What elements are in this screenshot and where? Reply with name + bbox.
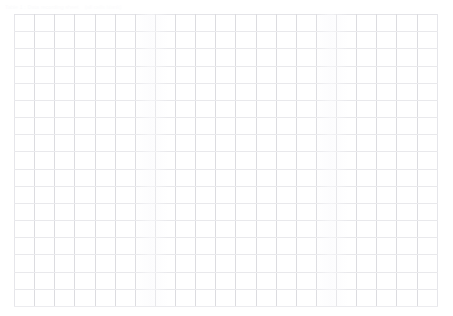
grid-cell[interactable] — [35, 15, 55, 32]
grid-cell[interactable] — [357, 100, 377, 117]
grid-cell[interactable] — [397, 255, 417, 272]
grid-cell[interactable] — [256, 238, 276, 255]
grid-cell[interactable] — [15, 135, 35, 152]
grid-cell[interactable] — [55, 83, 75, 100]
grid-cell[interactable] — [357, 152, 377, 169]
grid-cell[interactable] — [176, 135, 196, 152]
grid-cell[interactable] — [155, 169, 175, 186]
grid-cell[interactable] — [155, 15, 175, 32]
grid-cell[interactable] — [397, 135, 417, 152]
grid-cell[interactable] — [115, 221, 135, 238]
grid-cell[interactable] — [337, 32, 357, 49]
grid-cell[interactable] — [236, 66, 256, 83]
grid-cell[interactable] — [15, 289, 35, 306]
grid-cell[interactable] — [95, 255, 115, 272]
grid-cell[interactable] — [377, 49, 397, 66]
grid-cell[interactable] — [155, 66, 175, 83]
grid-cell[interactable] — [196, 83, 216, 100]
grid-cell[interactable] — [216, 49, 236, 66]
grid-cell[interactable] — [15, 203, 35, 220]
grid-cell[interactable] — [296, 272, 316, 289]
grid-cell[interactable] — [75, 152, 95, 169]
grid-cell[interactable] — [35, 49, 55, 66]
grid-cell[interactable] — [95, 169, 115, 186]
grid-cell[interactable] — [236, 289, 256, 306]
grid-cell[interactable] — [15, 169, 35, 186]
grid-cell[interactable] — [276, 83, 296, 100]
grid-cell[interactable] — [377, 255, 397, 272]
grid-cell[interactable] — [296, 221, 316, 238]
grid-cell[interactable] — [55, 289, 75, 306]
grid-cell[interactable] — [196, 272, 216, 289]
grid-cell[interactable] — [135, 186, 155, 203]
grid-cell[interactable] — [115, 203, 135, 220]
grid-cell[interactable] — [95, 66, 115, 83]
grid-cell[interactable] — [397, 186, 417, 203]
grid-cell[interactable] — [397, 272, 417, 289]
grid-cell[interactable] — [296, 135, 316, 152]
grid-cell[interactable] — [377, 221, 397, 238]
grid-cell[interactable] — [155, 255, 175, 272]
grid-cell[interactable] — [397, 100, 417, 117]
grid-cell[interactable] — [417, 289, 437, 306]
grid-cell[interactable] — [196, 66, 216, 83]
grid-cell[interactable] — [256, 83, 276, 100]
grid-cell[interactable] — [417, 238, 437, 255]
grid-cell[interactable] — [55, 15, 75, 32]
grid-cell[interactable] — [417, 15, 437, 32]
grid-cell[interactable] — [316, 255, 336, 272]
grid-cell[interactable] — [256, 289, 276, 306]
grid-cell[interactable] — [296, 186, 316, 203]
grid-cell[interactable] — [75, 289, 95, 306]
grid-cell[interactable] — [35, 272, 55, 289]
grid-cell[interactable] — [316, 203, 336, 220]
grid-cell[interactable] — [316, 49, 336, 66]
grid-cell[interactable] — [75, 66, 95, 83]
grid-cell[interactable] — [276, 152, 296, 169]
grid-cell[interactable] — [216, 272, 236, 289]
grid-cell[interactable] — [155, 83, 175, 100]
grid-cell[interactable] — [75, 49, 95, 66]
grid-cell[interactable] — [135, 100, 155, 117]
grid-cell[interactable] — [276, 32, 296, 49]
grid-cell[interactable] — [256, 272, 276, 289]
grid-cell[interactable] — [115, 15, 135, 32]
grid-cell[interactable] — [397, 169, 417, 186]
grid-cell[interactable] — [377, 118, 397, 135]
grid-cell[interactable] — [337, 15, 357, 32]
grid-cell[interactable] — [196, 152, 216, 169]
grid-cell[interactable] — [216, 221, 236, 238]
grid-cell[interactable] — [176, 272, 196, 289]
grid-cell[interactable] — [357, 49, 377, 66]
grid-cell[interactable] — [55, 135, 75, 152]
grid-cell[interactable] — [256, 118, 276, 135]
grid-cell[interactable] — [256, 49, 276, 66]
grid-cell[interactable] — [397, 15, 417, 32]
grid-cell[interactable] — [296, 238, 316, 255]
grid-cell[interactable] — [377, 238, 397, 255]
grid-cell[interactable] — [417, 272, 437, 289]
grid-cell[interactable] — [357, 289, 377, 306]
grid-cell[interactable] — [296, 83, 316, 100]
grid-cell[interactable] — [155, 118, 175, 135]
grid-cell[interactable] — [15, 186, 35, 203]
grid-cell[interactable] — [135, 49, 155, 66]
grid-cell[interactable] — [95, 221, 115, 238]
grid-cell[interactable] — [196, 169, 216, 186]
grid-cell[interactable] — [216, 289, 236, 306]
grid-cell[interactable] — [316, 238, 336, 255]
grid-cell[interactable] — [75, 238, 95, 255]
grid-cell[interactable] — [155, 186, 175, 203]
grid-cell[interactable] — [316, 135, 336, 152]
grid-cell[interactable] — [357, 186, 377, 203]
grid-cell[interactable] — [377, 15, 397, 32]
grid-cell[interactable] — [196, 238, 216, 255]
grid-cell[interactable] — [236, 238, 256, 255]
grid-cell[interactable] — [377, 66, 397, 83]
grid-cell[interactable] — [236, 135, 256, 152]
grid-cell[interactable] — [236, 100, 256, 117]
grid-cell[interactable] — [397, 152, 417, 169]
grid-cell[interactable] — [236, 118, 256, 135]
grid-cell[interactable] — [276, 118, 296, 135]
grid-cell[interactable] — [256, 32, 276, 49]
